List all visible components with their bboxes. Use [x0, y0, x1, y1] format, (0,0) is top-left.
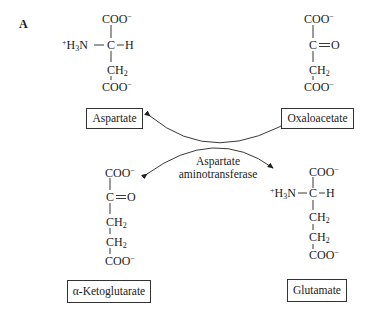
- akg-methylene-2: CH2: [106, 236, 127, 248]
- glutamate-top-carboxylate: COO−: [309, 166, 339, 178]
- oxaloacetate-label-box: Oxaloacetate: [281, 108, 354, 129]
- oxaloacetate-methylene: CH2: [309, 64, 330, 76]
- glutamate-bottom-carboxylate: COO−: [309, 249, 339, 261]
- glutamate-methylene-1: CH2: [309, 211, 330, 223]
- oxaloacetate-top-carboxylate: COO−: [304, 13, 334, 25]
- aspartate-alpha-carbon: C: [107, 39, 115, 51]
- aspartate-alpha-hydrogen: H: [125, 39, 134, 51]
- oxaloacetate-keto-oxygen: O: [331, 39, 340, 51]
- glutamate-amino-group: +H3N: [270, 187, 296, 199]
- glutamate-alpha-carbon: C: [309, 187, 317, 199]
- enzyme-label-line2: aminotransferase: [170, 168, 266, 181]
- akg-methylene-1: CH2: [106, 216, 127, 228]
- alpha-ketoglutarate-label-box: α-Ketoglutarate: [67, 280, 151, 303]
- glutamate-label-box: Glutamate: [287, 279, 347, 302]
- glutamate-methylene-2: CH2: [309, 231, 330, 243]
- akg-top-carboxylate: COO−: [105, 167, 135, 179]
- glutamate-alpha-hydrogen: H: [326, 187, 335, 199]
- aspartate-top-carboxylate: COO−: [102, 13, 132, 25]
- aspartate-amino-group: +H3N: [62, 39, 88, 51]
- enzyme-label: Aspartate aminotransferase: [170, 155, 266, 181]
- aspartate-label-box: Aspartate: [86, 108, 143, 129]
- aspartate-methylene: CH2: [107, 64, 128, 76]
- akg-keto-carbon: C: [106, 191, 114, 203]
- oxaloacetate-keto-carbon: C: [309, 39, 317, 51]
- enzyme-label-line1: Aspartate: [170, 155, 266, 168]
- aspartate-bottom-carboxylate: COO−: [102, 81, 132, 93]
- oxaloacetate-bottom-carboxylate: COO−: [304, 81, 334, 93]
- akg-bottom-carboxylate: COO−: [105, 255, 135, 267]
- akg-keto-oxygen: O: [127, 191, 136, 203]
